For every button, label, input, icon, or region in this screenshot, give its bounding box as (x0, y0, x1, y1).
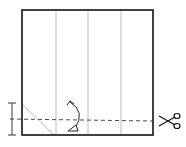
scissors-icon (159, 114, 180, 129)
paper-square (22, 10, 153, 135)
fold-arrow-icon (67, 101, 79, 131)
dimension-marker-icon (8, 103, 16, 135)
origami-diagram (0, 0, 186, 147)
valley-fold-line (10, 119, 153, 121)
